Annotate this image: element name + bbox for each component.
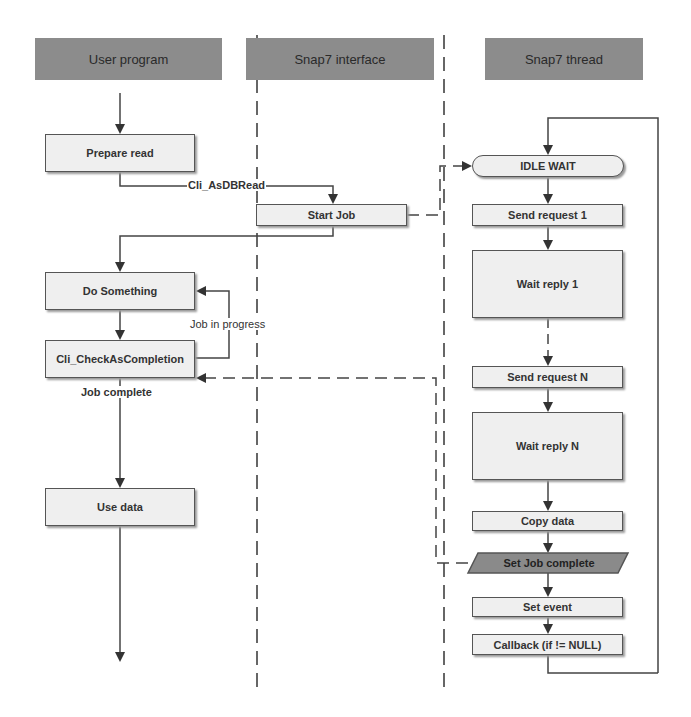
callback-box: Callback (if != NULL) <box>472 634 623 655</box>
copy-data-box: Copy data <box>472 511 623 531</box>
send-request-1-box: Send request 1 <box>472 204 623 226</box>
edge-label-as-db-read: Cli_AsDBRead <box>187 179 266 191</box>
send-request-n-box: Send request N <box>472 366 623 388</box>
edge-label-job-complete: Job complete <box>80 386 153 398</box>
check-completion-box: Cli_CheckAsCompletion <box>45 340 195 378</box>
prepare-read-box: Prepare read <box>45 134 195 172</box>
lane-header-snap7-thread: Snap7 thread <box>485 38 643 80</box>
start-job-box: Start Job <box>256 204 407 226</box>
lane-header-snap7-interface: Snap7 interface <box>246 38 434 80</box>
lane-header-user-program: User program <box>35 38 222 80</box>
edge-label-job-in-progress: Job in progress <box>189 318 266 330</box>
use-data-box: Use data <box>45 488 195 526</box>
wait-reply-n-box: Wait reply N <box>472 412 623 480</box>
do-something-box: Do Something <box>45 272 195 310</box>
set-event-box: Set event <box>472 597 623 617</box>
wait-reply-1-box: Wait reply 1 <box>472 250 623 318</box>
set-job-complete-label: Set Job complete <box>470 553 628 573</box>
idle-wait-box: IDLE WAIT <box>472 155 624 177</box>
